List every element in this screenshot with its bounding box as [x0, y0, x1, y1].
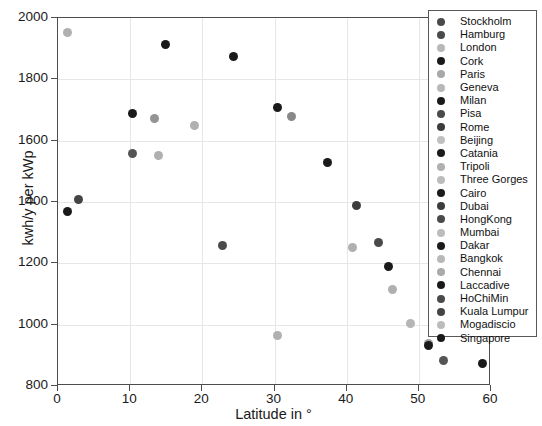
gridline-vertical [347, 18, 348, 384]
legend-item[interactable]: Mumbai [429, 226, 536, 239]
x-tick-label: 50 [398, 392, 438, 406]
legend-item[interactable]: HongKong [429, 213, 536, 226]
legend-marker-icon [437, 176, 445, 184]
legend-item-label: Dakar [460, 240, 489, 251]
y-tick-mark [51, 201, 57, 202]
legend-item-label: Rome [460, 122, 489, 133]
legend-item[interactable]: HoChiMin [429, 292, 536, 305]
x-axis-label: Latitude in ° [57, 406, 490, 422]
scatter-chart-figure: 8001000120014001600180020000102030405060… [0, 0, 542, 426]
data-point [273, 103, 282, 112]
legend-item[interactable]: Beijing [429, 134, 536, 147]
legend-item[interactable]: Bangkok [429, 252, 536, 265]
legend-item[interactable]: Chennai [429, 266, 536, 279]
y-tick-mark [51, 324, 57, 325]
legend-item-label: Mumbai [460, 227, 499, 238]
legend-item-label: Geneva [460, 82, 499, 93]
legend-item[interactable]: Pisa [429, 107, 536, 120]
legend-item-label: Stockholm [460, 16, 511, 27]
legend-item-label: Dubai [460, 201, 489, 212]
legend-marker-icon [437, 84, 445, 92]
legend-marker-icon [437, 123, 445, 131]
legend-item[interactable]: Milan [429, 94, 536, 107]
legend-item-label: Kuala Lumpur [460, 306, 529, 317]
legend-box[interactable]: StockholmHamburgLondonCorkParisGenevaMil… [428, 10, 537, 337]
legend-marker-icon [437, 97, 445, 105]
legend-marker-icon [437, 308, 445, 316]
gridline-vertical [202, 18, 203, 384]
data-point [374, 238, 383, 247]
legend-item[interactable]: Hamburg [429, 28, 536, 41]
legend-marker-icon [437, 149, 445, 157]
y-tick-label: 1000 [4, 317, 48, 331]
legend-item[interactable]: Cork [429, 55, 536, 68]
legend-marker-icon [437, 44, 445, 52]
data-point [439, 356, 448, 365]
y-tick-label: 1800 [4, 71, 48, 85]
legend-item[interactable]: Cairo [429, 186, 536, 199]
legend-item-label: Singapore [460, 333, 510, 344]
legend-marker-icon [437, 57, 445, 65]
legend-item[interactable]: Mogadiscio [429, 318, 536, 331]
legend-item[interactable]: Tripoli [429, 160, 536, 173]
legend-item-label: Milan [460, 95, 486, 106]
y-tick-mark [51, 78, 57, 79]
y-tick-label: 2000 [4, 10, 48, 24]
y-tick-mark [51, 262, 57, 263]
legend-marker-icon [437, 163, 445, 171]
legend-item[interactable]: Dubai [429, 200, 536, 213]
legend-item[interactable]: Paris [429, 68, 536, 81]
y-tick-mark [51, 17, 57, 18]
legend-marker-icon [437, 255, 445, 263]
legend-item[interactable]: Rome [429, 121, 536, 134]
data-point [273, 331, 282, 340]
data-point [161, 40, 170, 49]
legend-item[interactable]: London [429, 41, 536, 54]
data-point [348, 243, 357, 252]
legend-item-label: Chennai [460, 267, 501, 278]
legend-item[interactable]: Singapore [429, 332, 536, 345]
x-tick-label: 30 [254, 392, 294, 406]
gridline-horizontal [58, 141, 489, 142]
legend-marker-icon [437, 334, 445, 342]
legend-marker-icon [437, 281, 445, 289]
data-point [154, 151, 163, 160]
legend-item[interactable]: Catania [429, 147, 536, 160]
legend-marker-icon [437, 321, 445, 329]
legend-item-label: HoChiMin [460, 293, 508, 304]
legend-item-label: Cork [460, 56, 483, 67]
legend-item-label: Three Gorges [460, 174, 528, 185]
x-tick-label: 0 [37, 392, 77, 406]
legend-item-label: Hamburg [460, 29, 505, 40]
legend-marker-icon [437, 268, 445, 276]
legend-marker-icon [437, 215, 445, 223]
legend-item-label: Paris [460, 69, 485, 80]
legend-item[interactable]: Laccadive [429, 279, 536, 292]
legend-marker-icon [437, 70, 445, 78]
gridline-vertical [130, 18, 131, 384]
legend-item-label: Catania [460, 148, 498, 159]
legend-item[interactable]: Kuala Lumpur [429, 305, 536, 318]
legend-item[interactable]: Dakar [429, 239, 536, 252]
y-tick-mark [51, 140, 57, 141]
data-point [352, 201, 361, 210]
legend-marker-icon [437, 136, 445, 144]
gridline-horizontal [58, 79, 489, 80]
legend-item-label: Beijing [460, 135, 493, 146]
legend-item[interactable]: Three Gorges [429, 173, 536, 186]
plot-area [57, 17, 490, 385]
y-axis-label: kwh/y per kWp [20, 108, 36, 288]
gridline-vertical [419, 18, 420, 384]
legend-item[interactable]: Geneva [429, 81, 536, 94]
legend-marker-icon [437, 295, 445, 303]
x-tick-label: 40 [326, 392, 366, 406]
data-point [190, 121, 199, 130]
legend-marker-icon [437, 110, 445, 118]
legend-item-label: London [460, 42, 497, 53]
legend-item-label: Mogadiscio [460, 319, 516, 330]
legend-item[interactable]: Stockholm [429, 15, 536, 28]
legend-marker-icon [437, 189, 445, 197]
x-tick-label: 60 [470, 392, 510, 406]
legend-marker-icon [437, 31, 445, 39]
legend-item-label: Tripoli [460, 161, 490, 172]
